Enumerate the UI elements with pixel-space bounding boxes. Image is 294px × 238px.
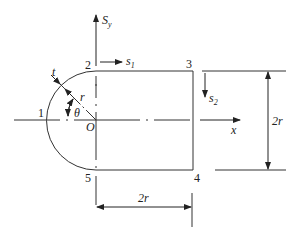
s1-label: s1 bbox=[126, 54, 135, 70]
theta-label: θ bbox=[74, 106, 80, 120]
height-dim-label: 2r bbox=[272, 114, 283, 128]
s2-label: s2 bbox=[209, 91, 218, 107]
x-axis-label: x bbox=[230, 123, 237, 137]
width-dim-label: 2r bbox=[138, 191, 149, 205]
radius-label: r bbox=[80, 90, 85, 104]
origin-label: O bbox=[86, 120, 95, 134]
sy-axis-label: Sy bbox=[102, 13, 112, 29]
point-4-label: 4 bbox=[194, 171, 200, 185]
theta-arc-reverse bbox=[68, 99, 73, 116]
point-2-label: 2 bbox=[85, 58, 91, 72]
section-diagram: x Sy 2 3 4 5 1 O s1 s2 t r θ 2r 2r bbox=[0, 0, 294, 238]
thickness-label: t bbox=[52, 65, 56, 79]
thickness-arrow-out bbox=[65, 89, 72, 96]
point-3-label: 3 bbox=[186, 57, 192, 71]
point-5-label: 5 bbox=[85, 171, 91, 185]
point-1-label: 1 bbox=[38, 106, 44, 120]
